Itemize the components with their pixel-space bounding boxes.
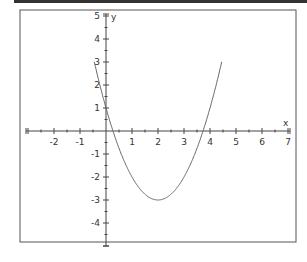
x-tick-label: -1 (76, 137, 85, 147)
x-axis-label: x (283, 118, 289, 128)
x-tick-label: 4 (207, 137, 213, 147)
y-tick-label: -2 (91, 172, 100, 182)
x-tick-label: 1 (129, 137, 135, 147)
ticks (28, 16, 288, 246)
y-tick-label: -3 (91, 195, 100, 205)
y-axis-label: y (111, 12, 117, 22)
y-tick-label: -4 (91, 218, 100, 228)
y-tick-label: 1 (94, 103, 100, 113)
y-tick-label: 5 (94, 11, 100, 21)
x-tick-label: 3 (181, 137, 187, 147)
x-tick-label: 7 (285, 137, 291, 147)
y-tick-label: -1 (91, 149, 100, 159)
x-tick-label: 6 (259, 137, 265, 147)
x-tick-label: -2 (50, 137, 59, 147)
x-tick-label: 5 (233, 137, 239, 147)
y-tick-label: 4 (94, 34, 100, 44)
parabola-chart: -2-1123456754321-1-2-3-4 x y (0, 0, 307, 262)
plot-frame (20, 10, 296, 242)
x-tick-label: 2 (155, 137, 161, 147)
